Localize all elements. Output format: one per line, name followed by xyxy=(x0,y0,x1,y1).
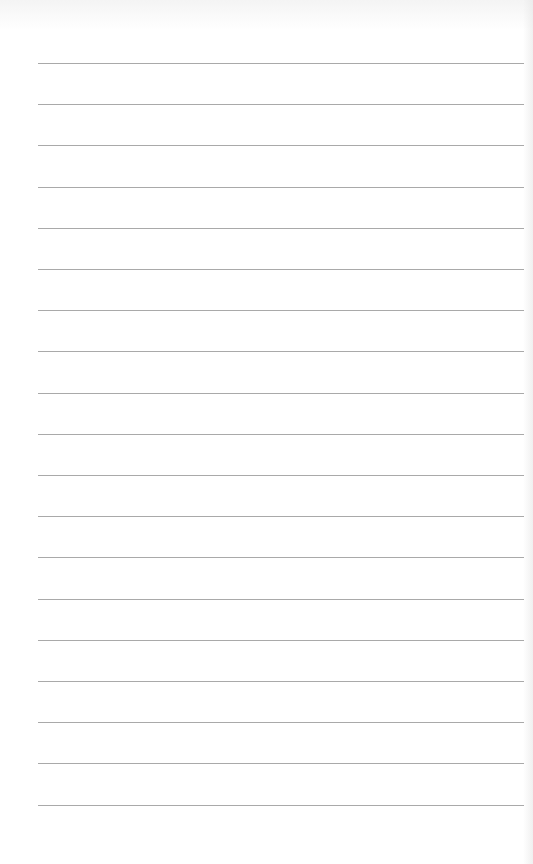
ruled-line xyxy=(38,269,524,270)
ruled-line xyxy=(38,228,524,229)
lined-paper-page xyxy=(0,0,533,864)
ruled-line xyxy=(38,434,524,435)
ruled-line xyxy=(38,599,524,600)
ruled-line xyxy=(38,63,524,64)
ruled-line xyxy=(38,805,524,806)
ruled-line xyxy=(38,681,524,682)
ruled-line xyxy=(38,393,524,394)
ruled-line xyxy=(38,722,524,723)
ruled-line xyxy=(38,475,524,476)
ruled-line xyxy=(38,557,524,558)
ruled-line xyxy=(38,145,524,146)
ruled-line xyxy=(38,351,524,352)
ruled-line xyxy=(38,516,524,517)
ruled-line xyxy=(38,640,524,641)
ruled-line xyxy=(38,104,524,105)
ruled-line xyxy=(38,310,524,311)
ruled-line xyxy=(38,763,524,764)
page-edge-shadow xyxy=(523,0,533,864)
ruled-line xyxy=(38,187,524,188)
